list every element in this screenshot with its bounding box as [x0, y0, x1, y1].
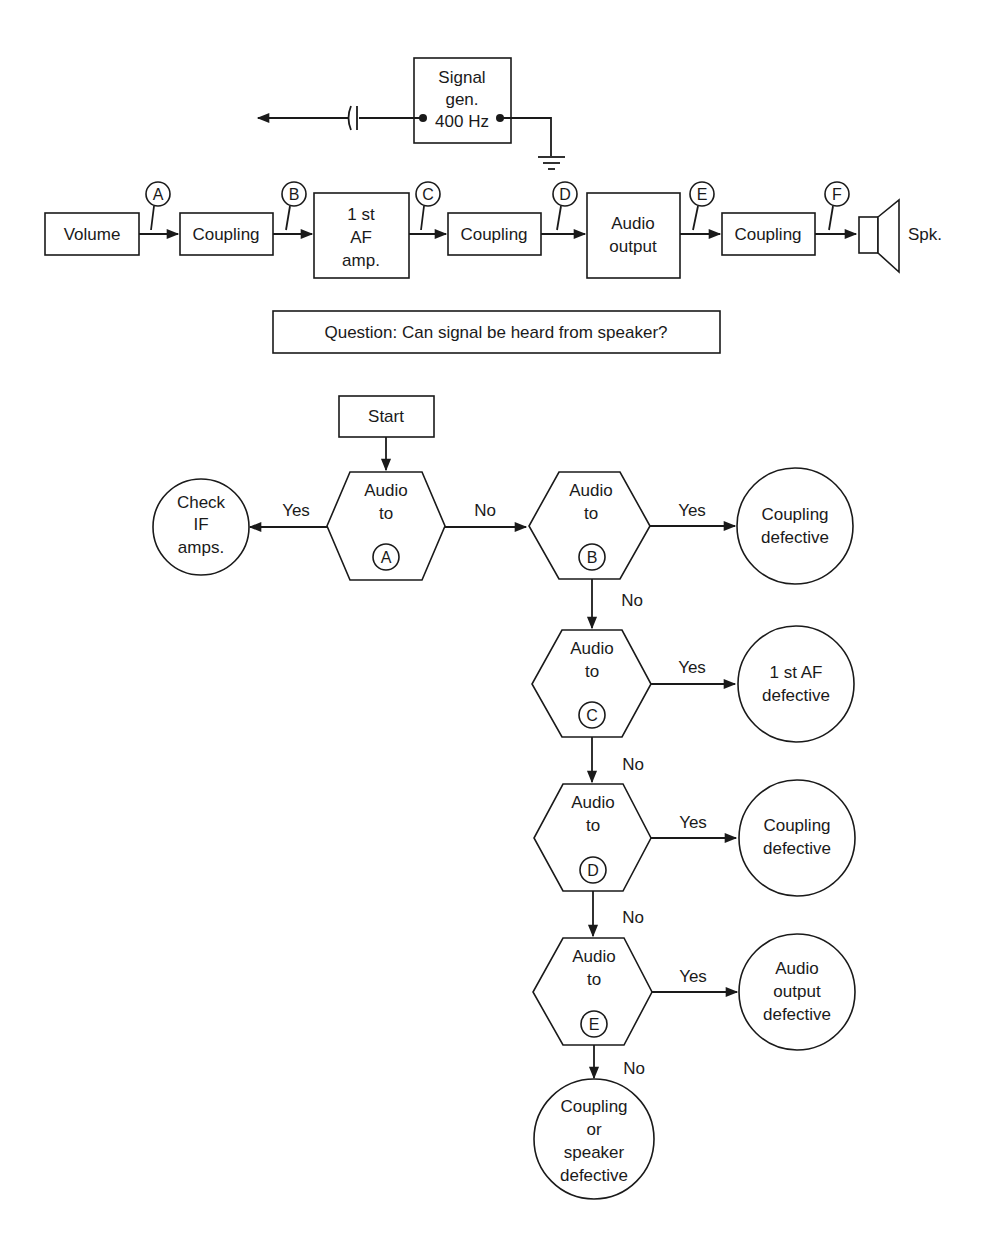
svg-text:A: A — [153, 186, 164, 203]
no-label-a: No — [474, 501, 496, 520]
svg-text:Audio: Audio — [572, 947, 615, 966]
test-point-b: B — [282, 182, 306, 230]
signal-chain: Volume Coupling 1 st AF amp. Coupling Au… — [45, 182, 942, 278]
svg-text:defective: defective — [763, 1005, 831, 1024]
svg-text:Coupling: Coupling — [763, 816, 830, 835]
troubleshooting-diagram: Signal gen. 400 Hz Volume Coupling 1 st … — [0, 0, 990, 1238]
yes-label-d: Yes — [679, 813, 707, 832]
svg-text:1 st AF: 1 st AF — [770, 663, 823, 682]
svg-text:Audio: Audio — [611, 214, 654, 233]
block-coupling-3-label: Coupling — [734, 225, 801, 244]
svg-text:speaker: speaker — [564, 1143, 625, 1162]
svg-text:Audio: Audio — [570, 639, 613, 658]
ground-icon — [538, 157, 565, 169]
decision-c: Audio to C — [532, 630, 651, 737]
block-af-amp-line-1: 1 st — [347, 205, 375, 224]
svg-text:Coupling: Coupling — [192, 225, 259, 244]
svg-text:to: to — [585, 662, 599, 681]
result-check-if-amps: Check IF amps. — [153, 479, 249, 575]
result-audio-output-defective: Audio output defective — [739, 934, 855, 1050]
svg-text:output: output — [773, 982, 821, 1001]
svg-text:Yes: Yes — [678, 658, 706, 677]
svg-text:Question: Can signal be heard: Question: Can signal be heard from speak… — [324, 323, 667, 342]
svg-text:defective: defective — [560, 1166, 628, 1185]
svg-text:No: No — [623, 1059, 645, 1078]
speaker-label: Spk. — [908, 225, 942, 244]
block-audio-output-line-2: output — [609, 237, 657, 256]
speaker-icon — [859, 200, 899, 272]
result-coupling-defective-d: Coupling defective — [739, 780, 855, 896]
svg-text:to: to — [379, 504, 393, 523]
svg-text:400 Hz: 400 Hz — [435, 112, 489, 131]
svg-text:F: F — [832, 186, 842, 203]
svg-text:No: No — [622, 908, 644, 927]
svg-text:Start: Start — [368, 407, 404, 426]
svg-text:Audio: Audio — [569, 481, 612, 500]
svg-text:Coupling: Coupling — [761, 505, 828, 524]
test-point-c: C — [416, 182, 440, 230]
svg-text:No: No — [622, 755, 644, 774]
svg-text:to: to — [586, 816, 600, 835]
decision-d: Audio to D — [534, 784, 651, 891]
no-label-e: No — [623, 1059, 645, 1078]
svg-text:1 st: 1 st — [347, 205, 375, 224]
flowchart: Start Audio to A Yes Check IF amps. No A… — [153, 396, 855, 1199]
test-point-d: D — [553, 182, 577, 230]
block-af-amp-line-2: AF — [350, 228, 372, 247]
svg-text:defective: defective — [763, 839, 831, 858]
svg-text:Check: Check — [177, 493, 226, 512]
block-volume-label: Volume — [64, 225, 121, 244]
svg-text:to: to — [587, 970, 601, 989]
yes-label-c: Yes — [678, 658, 706, 677]
svg-text:Coupling: Coupling — [734, 225, 801, 244]
block-audio-output — [587, 193, 680, 278]
svg-text:B: B — [587, 549, 598, 566]
signal-gen-line-2: gen. — [445, 90, 478, 109]
svg-text:B: B — [289, 186, 300, 203]
svg-text:Audio: Audio — [364, 481, 407, 500]
no-label-d: No — [622, 908, 644, 927]
result-coupling-or-speaker-defective: Coupling or speaker defective — [534, 1079, 654, 1199]
block-audio-output-line-1: Audio — [611, 214, 654, 233]
svg-text:to: to — [584, 504, 598, 523]
svg-text:AF: AF — [350, 228, 372, 247]
svg-text:gen.: gen. — [445, 90, 478, 109]
test-point-f: F — [825, 182, 849, 230]
svg-text:or: or — [586, 1120, 601, 1139]
yes-label-e: Yes — [679, 967, 707, 986]
result-coupling-defective-b: Coupling defective — [737, 468, 853, 584]
svg-text:D: D — [587, 862, 599, 879]
signal-generator: Signal gen. 400 Hz — [258, 58, 565, 169]
decision-b: Audio to B — [529, 472, 650, 579]
svg-text:No: No — [474, 501, 496, 520]
svg-text:C: C — [422, 186, 434, 203]
decision-a: Audio to A — [327, 472, 445, 580]
svg-text:Audio: Audio — [571, 793, 614, 812]
svg-text:D: D — [559, 186, 571, 203]
test-point-e: E — [690, 182, 714, 230]
decision-e: Audio to E — [533, 938, 652, 1045]
test-point-a: A — [146, 182, 170, 230]
svg-text:Yes: Yes — [679, 813, 707, 832]
svg-text:Signal: Signal — [438, 68, 485, 87]
signal-gen-line-1: Signal — [438, 68, 485, 87]
no-label-b: No — [621, 591, 643, 610]
svg-text:defective: defective — [762, 686, 830, 705]
yes-label-b: Yes — [678, 501, 706, 520]
svg-text:Audio: Audio — [775, 959, 818, 978]
svg-text:Yes: Yes — [678, 501, 706, 520]
svg-text:E: E — [697, 186, 708, 203]
svg-text:Volume: Volume — [64, 225, 121, 244]
question-text: Question: Can signal be heard from speak… — [324, 323, 667, 342]
svg-text:IF: IF — [193, 515, 208, 534]
svg-text:No: No — [621, 591, 643, 610]
svg-text:E: E — [589, 1016, 600, 1033]
svg-text:C: C — [586, 707, 598, 724]
svg-text:defective: defective — [761, 528, 829, 547]
svg-text:Yes: Yes — [679, 967, 707, 986]
result-1st-af-defective: 1 st AF defective — [738, 626, 854, 742]
svg-text:Coupling: Coupling — [460, 225, 527, 244]
svg-text:amp.: amp. — [342, 251, 380, 270]
block-af-amp-line-3: amp. — [342, 251, 380, 270]
svg-text:amps.: amps. — [178, 538, 224, 557]
